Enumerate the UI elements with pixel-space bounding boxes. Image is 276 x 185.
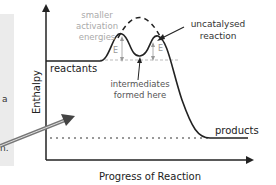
uncatalysed-label-1: uncatalysed (191, 19, 246, 29)
ea1-label: E (113, 46, 118, 55)
uncatalysed-pointer-head-icon (157, 34, 165, 41)
y-axis-arrow-icon (42, 4, 50, 12)
ea1-arrow-down-icon (120, 57, 124, 62)
intermediates-label-2: formed here (114, 90, 166, 100)
smaller-activation-label-1: smaller (81, 10, 113, 20)
smaller-activation-label-2: activation (76, 21, 118, 31)
x-axis-arrow-icon (246, 156, 254, 164)
smaller-activation-label-3: energies (79, 32, 116, 42)
enthalpy-diagram: smaller activation energies uncatalysed … (0, 0, 276, 185)
intermediates-label-1: intermediates (110, 79, 170, 89)
x-axis-label: Progress of Reaction (99, 171, 201, 182)
callout-arrow-highlight (0, 119, 68, 146)
ea2-arrow-up-icon (151, 42, 155, 47)
y-axis-label: Enthalpy (31, 70, 42, 114)
ea2-label: E (158, 44, 163, 53)
products-label: products (215, 125, 259, 136)
reactants-label: reactants (50, 63, 97, 74)
ea1-arrow-up-icon (120, 36, 124, 41)
uncatalysed-label-2: reaction (200, 31, 237, 41)
